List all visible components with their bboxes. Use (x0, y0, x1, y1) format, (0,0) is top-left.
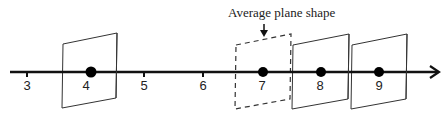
tick-label-8: 8 (316, 78, 323, 93)
caption-arrow-icon (260, 24, 268, 37)
point-8-dot (316, 67, 326, 77)
point-9-dot (374, 67, 384, 77)
point-7-dot (258, 67, 268, 77)
plane-diagram: Average plane shape 3 4 5 6 7 8 9 (0, 0, 446, 117)
tick-label-4: 4 (82, 78, 89, 93)
point-4-dot (86, 67, 97, 78)
tick-label-9: 9 (375, 78, 382, 93)
tick-label-7: 7 (258, 78, 265, 93)
tick-label-6: 6 (199, 78, 206, 93)
tick-label-5: 5 (140, 78, 147, 93)
caption-average-plane-shape: Average plane shape (228, 5, 336, 20)
tick-label-3: 3 (23, 78, 30, 93)
